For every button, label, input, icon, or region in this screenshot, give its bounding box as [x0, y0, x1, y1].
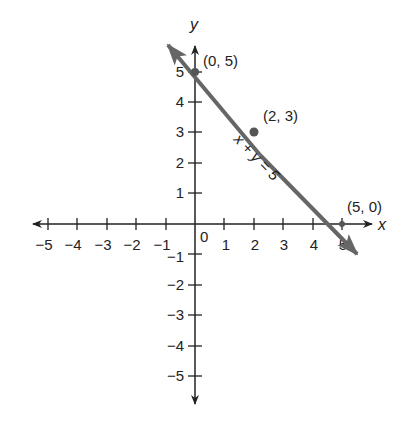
svg-text:−5: −5 — [167, 367, 184, 384]
svg-text:−3: −3 — [94, 236, 111, 253]
svg-text:−4: −4 — [64, 236, 81, 253]
x-tick-labels: −5 −4 −3 −2 −1 1 2 3 4 5 — [35, 236, 347, 253]
x-axis-label: x — [377, 216, 387, 233]
y-axis-label: y — [189, 16, 199, 33]
point-label-5-0: (5, 0) — [347, 198, 382, 215]
svg-text:1: 1 — [176, 184, 184, 201]
svg-text:−3: −3 — [167, 306, 184, 323]
svg-text:4: 4 — [176, 93, 184, 110]
point-5-0 — [339, 221, 345, 227]
point-0-5 — [191, 68, 199, 76]
svg-text:−1: −1 — [167, 248, 184, 265]
svg-text:−2: −2 — [167, 276, 184, 293]
point-2-3 — [250, 128, 259, 137]
origin-label: 0 — [200, 228, 208, 245]
svg-text:4: 4 — [310, 236, 318, 253]
point-label-2-3: (2, 3) — [263, 107, 298, 124]
svg-text:3: 3 — [176, 123, 184, 140]
svg-text:−4: −4 — [167, 337, 184, 354]
coordinate-plane: −5 −4 −3 −2 −1 1 2 3 4 5 0 5 4 3 2 1 −1 … — [0, 0, 409, 433]
svg-text:3: 3 — [280, 236, 288, 253]
equation-label: x + y = 5 — [230, 130, 283, 184]
svg-text:1: 1 — [222, 236, 230, 253]
svg-text:−2: −2 — [123, 236, 140, 253]
point-label-0-5: (0, 5) — [203, 52, 238, 69]
svg-text:2: 2 — [251, 236, 259, 253]
svg-text:2: 2 — [176, 154, 184, 171]
svg-text:−5: −5 — [35, 236, 52, 253]
